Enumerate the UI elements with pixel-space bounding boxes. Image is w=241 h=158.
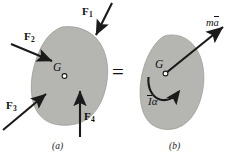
resultant-force-label-vector: a xyxy=(214,18,219,29)
force-label-f2: F2 xyxy=(24,31,35,43)
center-of-mass-marker-b xyxy=(163,71,168,76)
resultant-force-label: ma xyxy=(206,18,219,29)
force-label-f3: F3 xyxy=(6,100,17,112)
caption-panel-b: (b) xyxy=(169,142,180,152)
center-of-mass-marker-a xyxy=(62,74,67,79)
force-label-f2-base: F xyxy=(24,30,31,42)
panel-a-body xyxy=(31,27,107,126)
force-label-f4-base: F xyxy=(84,110,91,122)
force-label-f3-base: F xyxy=(6,99,13,111)
caption-panel-a: (a) xyxy=(52,142,63,152)
force-label-f1-subscript: 1 xyxy=(89,10,93,19)
force-label-f2-subscript: 2 xyxy=(31,35,35,44)
equals-sign: = xyxy=(112,62,124,83)
resultant-force-label-prefix: m xyxy=(206,17,214,28)
moment-label-alpha: α xyxy=(152,95,158,107)
moment-label-inertia: I xyxy=(148,96,152,107)
force-label-f3-subscript: 3 xyxy=(13,104,17,113)
force-arrow-f1 xyxy=(96,3,112,35)
center-of-mass-label-a: G xyxy=(53,62,61,74)
center-of-mass-label-b: G xyxy=(155,59,163,71)
force-label-f1: F1 xyxy=(82,6,93,18)
force-label-f4-subscript: 4 xyxy=(91,115,95,124)
force-label-f1-base: F xyxy=(82,5,89,17)
figure-root: F1 F2 F3 F4 G = G ma Iα (a) (b) xyxy=(0,0,241,158)
force-label-f4: F4 xyxy=(84,111,95,123)
moment-label: Iα xyxy=(148,96,157,107)
